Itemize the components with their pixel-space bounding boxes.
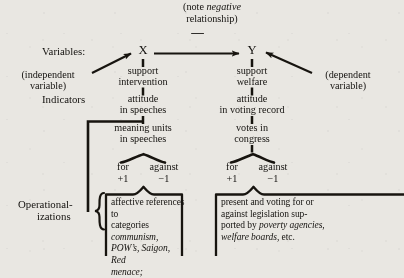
left-box-line-2-plain: categories: [111, 220, 149, 230]
left-box-line-2-italic: communism,: [111, 232, 158, 242]
right-against-value: −1: [268, 174, 279, 184]
left-concept-line2: intervention: [118, 77, 167, 87]
right-box-line-2: against legislation sup-: [221, 209, 401, 221]
independent-variable-line2: variable): [30, 81, 66, 91]
right-operationalization-text: present and voting for or against legisl…: [221, 197, 401, 243]
right-box-line-3: ported by poverty agencies,: [221, 220, 401, 232]
left-unit-line1: meaning units: [114, 123, 171, 133]
arrow-dependent-to-y: [266, 53, 312, 74]
left-box-line-1-text: affective references to: [111, 197, 184, 219]
right-against-label: against: [259, 162, 288, 172]
right-for-label: for: [226, 162, 238, 172]
note-negative-relationship-line2: relationship): [186, 14, 238, 24]
row-label-indicators: Indicators: [42, 94, 85, 105]
right-indicator-line1: attitude: [237, 94, 268, 104]
row-label-operationalizations-line1: Operational-: [18, 199, 73, 210]
note-negative-word: negative: [206, 1, 241, 12]
right-box-line-4-italic: welfare boards: [221, 232, 277, 242]
left-operationalization-text: affective references to categories commu…: [111, 197, 185, 278]
dependent-variable-line2: variable): [330, 81, 366, 91]
left-indicator-line1: attitude: [128, 94, 159, 104]
dependent-variable-line1: (dependent: [325, 70, 370, 80]
row-label-variables: Variables:: [42, 46, 85, 57]
left-box-line-4: menace;: [111, 267, 185, 278]
right-unit-line2: congress: [234, 134, 270, 144]
independent-variable-line1: (independent: [21, 70, 74, 80]
right-box-line-1: present and voting for or: [221, 197, 401, 209]
left-box-line-3: POW’s, Saigon, Red: [111, 243, 185, 266]
left-indicator-line2: in speeches: [120, 105, 167, 115]
right-for-value: +1: [227, 174, 238, 184]
note-negative-relationship-line1: (note negative: [183, 2, 241, 12]
arrow-independent-to-x: [92, 54, 131, 74]
left-box-line-1: affective references to: [111, 197, 185, 220]
right-box-line-3-plain: ported by: [221, 220, 259, 230]
variable-x: X: [138, 44, 147, 57]
right-unit-line1: votes in: [236, 123, 268, 133]
right-box-line-3-italic: poverty agencies,: [259, 220, 325, 230]
row-label-operationalizations-line2: izations: [37, 211, 71, 222]
variable-y: Y: [247, 44, 256, 57]
left-box-line-2: categories communism,: [111, 220, 185, 243]
left-for-label: for: [117, 162, 129, 172]
left-unit-line2: in speeches: [120, 134, 167, 144]
right-box-line-4-plain: , etc.: [277, 232, 295, 242]
right-concept-line2: welfare: [237, 77, 268, 87]
left-against-value: −1: [159, 174, 170, 184]
left-for-value: +1: [118, 174, 129, 184]
negative-sign-glyph: —: [191, 26, 203, 39]
right-concept-line1: support: [237, 66, 268, 76]
note-prefix: (note: [183, 1, 206, 12]
right-indicator-line2: in voting record: [219, 105, 284, 115]
right-box-line-4: welfare boards, etc.: [221, 232, 401, 244]
brace-operationalizations: [95, 193, 104, 230]
left-concept-line1: support: [128, 66, 159, 76]
left-against-label: against: [150, 162, 179, 172]
